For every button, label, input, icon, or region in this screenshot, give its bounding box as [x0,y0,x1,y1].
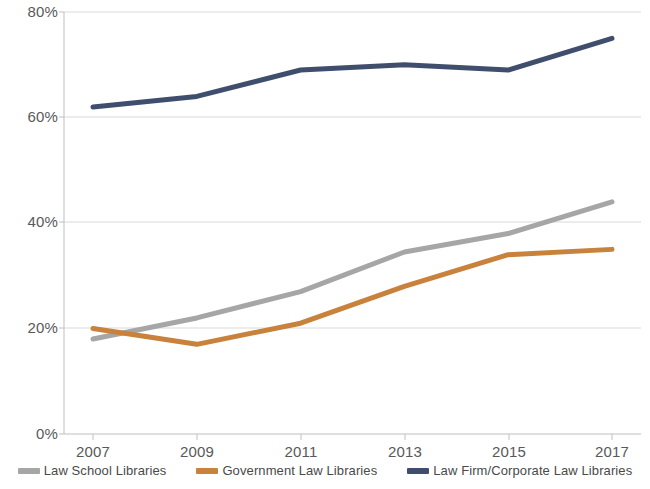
legend-label: Government Law Libraries [222,463,377,478]
chart-legend: Law School Libraries Government Law Libr… [0,463,650,478]
legend-swatch-icon [407,468,429,474]
x-tick-label-2007: 2007 [63,443,123,460]
legend-label: Law Firm/Corporate Law Libraries [433,463,632,478]
legend-label: Law School Libraries [44,463,167,478]
x-tick-label-2017: 2017 [582,443,642,460]
x-tick-label-2011: 2011 [271,443,331,460]
x-axis: 2007 2009 2011 2013 2015 2017 [0,0,650,489]
x-tick-label-2015: 2015 [479,443,539,460]
legend-item-law-firm-corporate-law-libraries[interactable]: Law Firm/Corporate Law Libraries [407,463,632,478]
x-tick-label-2009: 2009 [167,443,227,460]
legend-item-government-law-libraries[interactable]: Government Law Libraries [196,463,377,478]
legend-item-law-school-libraries[interactable]: Law School Libraries [18,463,167,478]
legend-swatch-icon [196,468,218,474]
legend-swatch-icon [18,468,40,474]
x-tick-label-2013: 2013 [375,443,435,460]
line-chart: 80% 60% 40% 20% 0% 2007 2009 2011 2013 2… [0,0,650,489]
